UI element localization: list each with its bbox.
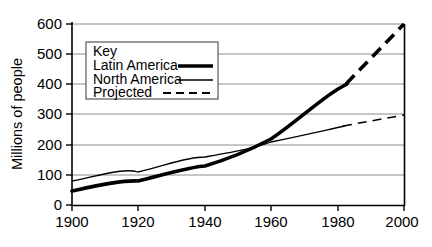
line-chart-figure: 600 500 400 300 200 100 0 1900 1920 1940… xyxy=(0,0,432,247)
y-tick-label-0: 0 xyxy=(54,196,62,213)
y-tick-label-100: 100 xyxy=(37,166,62,183)
y-axis-title: Millions of people xyxy=(9,58,25,170)
chart-canvas: 600 500 400 300 200 100 0 1900 1920 1940… xyxy=(0,0,432,247)
y-tick-label-200: 200 xyxy=(37,136,62,153)
x-tick-label-1960: 1960 xyxy=(254,213,287,230)
y-tick-labels: 600 500 400 300 200 100 0 xyxy=(37,15,62,213)
x-tick-label-1980: 1980 xyxy=(321,213,354,230)
series-line-north-america-projected xyxy=(343,115,404,126)
y-tick-label-400: 400 xyxy=(37,75,62,92)
x-tick-labels: 1900 1920 1940 1960 1980 2000 xyxy=(55,213,418,230)
x-tick-label-1900: 1900 xyxy=(55,213,88,230)
y-tick-label-300: 300 xyxy=(37,105,62,122)
y-tick-marks xyxy=(66,24,72,205)
legend-label-projected: Projected xyxy=(93,84,152,100)
x-tick-label-2000: 2000 xyxy=(385,213,418,230)
x-tick-label-1940: 1940 xyxy=(188,213,221,230)
x-tick-label-1920: 1920 xyxy=(121,213,154,230)
legend: Key Latin America North America Projecte… xyxy=(86,42,218,100)
y-tick-label-600: 600 xyxy=(37,15,62,32)
series-line-north-america xyxy=(72,126,345,181)
y-tick-label-500: 500 xyxy=(37,45,62,62)
